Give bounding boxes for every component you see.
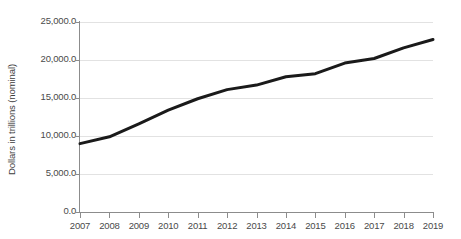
y-tick-label: 20,000.0 xyxy=(18,53,76,64)
x-tick-mark xyxy=(80,213,81,218)
y-tick-label: 5,000.0 xyxy=(18,167,76,178)
x-tick-mark xyxy=(139,213,140,218)
line-chart: Dollars in trillions (nominal) 0.05,000.… xyxy=(0,0,461,239)
x-tick-mark xyxy=(286,213,287,218)
x-tick-mark xyxy=(433,213,434,218)
y-axis-tick-labels: 0.05,000.010,000.015,000.020,000.025,000… xyxy=(18,0,76,239)
x-tick-mark xyxy=(227,213,228,218)
data-series-line xyxy=(80,22,433,212)
x-tick-mark xyxy=(168,213,169,218)
y-tick-label: 25,000.0 xyxy=(18,15,76,26)
y-tick-mark xyxy=(75,98,80,99)
x-tick-mark xyxy=(198,213,199,218)
x-tick-mark xyxy=(374,213,375,218)
y-tick-mark xyxy=(75,174,80,175)
x-tick-mark xyxy=(345,213,346,218)
y-tick-mark xyxy=(75,212,80,213)
y-tick-mark xyxy=(75,60,80,61)
y-tick-label: 0.0 xyxy=(18,205,76,216)
x-tick-mark xyxy=(404,213,405,218)
series-polyline xyxy=(80,39,433,143)
y-tick-label: 15,000.0 xyxy=(18,91,76,102)
x-tick-mark xyxy=(109,213,110,218)
y-tick-mark xyxy=(75,22,80,23)
y-tick-label: 10,000.0 xyxy=(18,129,76,140)
plot-area xyxy=(80,22,433,212)
x-tick-label: 2019 xyxy=(416,220,450,231)
x-tick-mark xyxy=(315,213,316,218)
x-tick-mark xyxy=(257,213,258,218)
y-tick-mark xyxy=(75,136,80,137)
